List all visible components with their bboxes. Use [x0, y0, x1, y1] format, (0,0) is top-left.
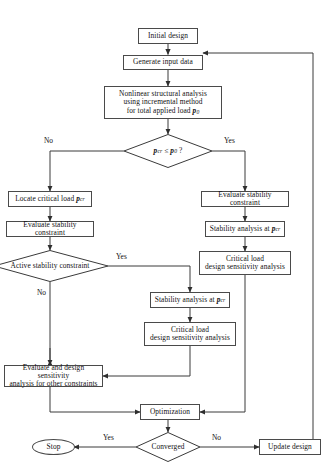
node-generate-input-data-label: Generate input data [133, 58, 193, 66]
edge-label-converged-yes: Yes [103, 433, 114, 442]
edge-label-active-no: No [37, 288, 46, 297]
edge-label-pcr-no-text: No [44, 136, 53, 145]
node-initial-design[interactable]: Initial design [138, 28, 198, 44]
node-critical-load-dsa-right[interactable]: Critical load design sensitivity analysi… [199, 251, 291, 275]
node-stability-analysis-right[interactable]: Stability analysis at pcr [205, 221, 285, 237]
node-evaluate-stability-right-label: Evaluate stability constraint [205, 191, 285, 208]
shape-decision-pcr [124, 135, 212, 168]
node-locate-critical-load-text: Locate critical load [15, 195, 74, 203]
node-evaluate-stability-left-label: Evaluate stability constraint [10, 221, 90, 238]
edge-label-active-yes-text: Yes [116, 252, 127, 261]
shape-decision-converged [136, 433, 200, 462]
shape-decision-active [0, 251, 108, 282]
node-generate-input-data[interactable]: Generate input data [123, 55, 203, 71]
node-critical-load-dsa-right-line2: design sensitivity analysis [205, 263, 285, 271]
edge-decision-yes [212, 151, 245, 191]
node-stability-analysis-mid[interactable]: Stability analysis at pcr [150, 292, 230, 308]
node-stability-analysis-mid-sub: cr [220, 297, 225, 303]
edge-decision-no [50, 151, 124, 191]
node-critical-load-dsa-mid[interactable]: Critical load design sensitivity analysi… [144, 322, 236, 346]
node-update-design-label: Update design [268, 443, 312, 451]
edge-active-yes [108, 266, 190, 292]
node-stop-label: Stop [47, 443, 61, 451]
edge-dsa-mid-to-evaluate-other [103, 346, 190, 376]
node-stability-analysis-mid-text: Stability analysis at [155, 296, 215, 304]
node-evaluate-other-constraints[interactable]: Evaluate and design sensitivity analysis… [4, 365, 103, 387]
node-critical-load-dsa-mid-line2: design sensitivity analysis [150, 334, 230, 342]
node-nonlinear-analysis-line3-text: for total applied load [127, 106, 191, 115]
flowchart-canvas: Initial design Generate input data Nonli… [0, 0, 328, 476]
node-locate-critical-load[interactable]: Locate critical load pcr [8, 191, 92, 207]
node-locate-critical-load-sub: cr [80, 196, 85, 202]
node-nonlinear-analysis-line3: for total applied load p0 [127, 107, 200, 115]
edge-label-converged-no-text: No [212, 433, 221, 442]
edge-evaluate-other-to-optimization [50, 387, 140, 412]
edge-label-converged-yes-text: Yes [103, 433, 114, 442]
edge-label-converged-no: No [212, 433, 221, 442]
edge-label-pcr-yes: Yes [224, 136, 235, 145]
node-evaluate-stability-right[interactable]: Evaluate stability constraint [201, 191, 289, 207]
node-stability-analysis-right-text: Stability analysis at [210, 225, 270, 233]
edge-label-pcr-no: No [44, 136, 53, 145]
node-stability-analysis-right-sub: cr [275, 226, 280, 232]
node-evaluate-stability-left[interactable]: Evaluate stability constraint [6, 221, 94, 237]
node-initial-design-label: Initial design [148, 32, 188, 40]
node-nonlinear-analysis[interactable]: Nonlinear structural analysis using incr… [104, 86, 222, 119]
edge-label-active-yes: Yes [116, 252, 127, 261]
node-optimization-label: Optimization [150, 408, 190, 416]
node-evaluate-other-constraints-line2: analysis for other constraints [9, 380, 97, 388]
node-stop[interactable]: Stop [32, 439, 75, 455]
edge-label-pcr-yes-text: Yes [224, 136, 235, 145]
edge-label-active-no-text: No [37, 288, 46, 297]
node-optimization[interactable]: Optimization [140, 404, 200, 420]
node-nonlinear-analysis-load-sub: 0 [196, 109, 199, 115]
node-evaluate-other-constraints-line1: Evaluate and design sensitivity [8, 364, 99, 381]
node-update-design[interactable]: Update design [259, 439, 321, 455]
